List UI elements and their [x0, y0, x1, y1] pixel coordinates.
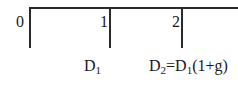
cash-flow-d2: D2=D1(1+g)	[149, 57, 228, 75]
tick-1-line	[109, 7, 111, 48]
timeline-axis	[29, 7, 238, 9]
tick-2-label: 2	[172, 14, 180, 30]
tick-0-label: 0	[16, 14, 24, 30]
d2-growth-factor: (1+g)	[192, 57, 228, 74]
d2-base: D	[149, 57, 161, 74]
d1-base: D	[84, 57, 96, 74]
tick-1-label: 1	[100, 14, 108, 30]
d2-equals-d: =D	[166, 57, 187, 74]
tick-0-line	[29, 7, 31, 48]
cash-flow-d1: D1	[84, 57, 101, 75]
tick-2-line	[181, 7, 183, 48]
d1-subscript: 1	[96, 64, 102, 76]
